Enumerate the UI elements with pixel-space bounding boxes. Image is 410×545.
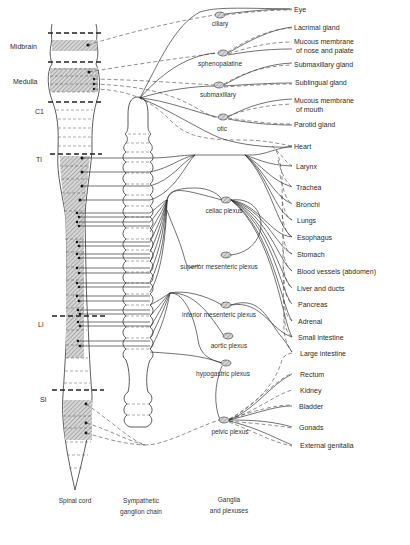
pelvic-postganglionic-fibers (229, 373, 292, 446)
organ-label-adrenal: Adrenal (298, 318, 323, 325)
organ-label-blood-vessels: Blood vessels (abdomen) (297, 268, 376, 276)
caption-spinal-cord: Spinal cord (59, 497, 92, 505)
aortic-plexus-icon (223, 333, 233, 339)
organ-label-external-genitalia: External genitalia (300, 442, 354, 450)
organ-labels: Eye Lacrimal gland Mucous membrane of no… (294, 6, 376, 450)
organ-label-pancreas: Pancreas (298, 301, 328, 308)
organ-label-mucous-mouth: Mucous membrane (294, 97, 354, 104)
organ-label-trachea: Trachea (296, 184, 322, 191)
ciliary-ganglion-icon (215, 12, 225, 18)
caption-chain-line2: ganglion chain (120, 508, 162, 516)
cranial-postganglionic-fibers (224, 9, 292, 125)
sympathetic-ganglion-chain (123, 97, 153, 427)
inferior-mesenteric-plexus-icon (221, 302, 231, 308)
organ-label-stomach: Stomach (297, 251, 325, 258)
organ-label-mucous-nose-palate: Mucous membrane (294, 38, 354, 45)
organ-label-parotid-gland: Parotid gland (294, 121, 335, 129)
caption-ganglia-line1: Ganglia (218, 496, 241, 504)
organ-label-larynx: Larynx (296, 163, 318, 171)
organ-label-mucous-nose-palate-line2: of nose and palate (296, 47, 354, 55)
plexus-label-inferior-mesenteric: inferior mesenteric plexus (182, 311, 257, 319)
caption-chain-line1: Sympathetic (123, 497, 160, 505)
celiac-plexus-icon (221, 197, 231, 203)
ganglion-label-sphenopalatine: sphenopalatine (198, 60, 242, 68)
submaxillary-ganglion-icon (214, 82, 224, 88)
organ-label-large-intestine: Large intestine (300, 350, 346, 358)
organ-label-small-intestine: Small intestine (298, 334, 344, 341)
organ-label-submaxillary-gland: Submaxillary gland (294, 61, 353, 69)
level-label-midbrain: Midbrain (10, 43, 37, 50)
superior-mesenteric-plexus-icon (221, 252, 231, 258)
level-label-t1: Tl (36, 156, 42, 163)
pelvic-plexus-icon (219, 417, 229, 423)
organ-label-heart: Heart (294, 143, 311, 150)
plexus-label-superior-mesenteric: superior mesenteric plexus (180, 263, 258, 271)
plexus-label-hypogastric: hypogastric plexus (196, 370, 251, 378)
organ-label-lacrimal-gland: Lacrimal gland (294, 24, 340, 32)
level-label-medulla: Medulla (13, 78, 38, 85)
level-label-s1: Sl (40, 396, 47, 403)
organ-label-bronchi: Bronchi (296, 201, 320, 208)
ganglion-chain-outline (123, 97, 153, 427)
ganglion-label-submaxillary: submaxillary (200, 91, 237, 99)
organ-label-rectum: Rectum (300, 371, 324, 378)
level-label-c1: C1 (35, 108, 44, 115)
otic-ganglion-icon (218, 114, 228, 120)
thoracic-sympathetic-fibers (150, 146, 292, 237)
sphenopalatine-ganglion-icon (218, 50, 228, 56)
spinal-cord (48, 24, 105, 490)
vagus-parasympathetic-fibers (272, 146, 292, 352)
caption-ganglia-line2: and plexuses (210, 507, 249, 515)
plexus-label-celiac: celiac plexus (205, 207, 243, 215)
column-captions: Spinal cord Sympathetic ganglion chain G… (59, 496, 249, 516)
autonomic-nervous-system-diagram: Midbrain Medulla C1 Tl Ll Sl ciliary sph… (0, 0, 410, 545)
organ-label-mucous-mouth-line2: of mouth (296, 106, 323, 113)
ganglion-label-otic: otic (217, 125, 228, 132)
organ-label-sublingual-gland: Sublingual gland (295, 79, 347, 87)
organ-label-liver-ducts: Liver and ducts (297, 285, 345, 292)
cranial-parasympathetic-fibers (88, 15, 292, 146)
organ-label-lungs: Lungs (297, 217, 317, 225)
organ-label-esophagus: Esophagus (297, 234, 333, 242)
cord-level-labels: Midbrain Medulla C1 Tl Ll Sl (10, 43, 47, 403)
plexus-label-pelvic: pelvic plexus (211, 428, 249, 436)
level-label-l1: Ll (38, 321, 44, 328)
hypogastric-plexus-icon (221, 360, 231, 366)
organ-label-kidney: Kidney (300, 387, 322, 395)
organ-label-bladder: Bladder (299, 403, 324, 410)
ganglion-label-ciliary: ciliary (212, 20, 229, 28)
organ-label-eye: Eye (294, 6, 306, 14)
sacral-nuclei (63, 400, 92, 440)
midbrain-nucleus (52, 40, 97, 51)
organ-label-gonads: Gonads (299, 424, 324, 431)
plexus-label-aortic: aortic plexus (211, 342, 248, 350)
